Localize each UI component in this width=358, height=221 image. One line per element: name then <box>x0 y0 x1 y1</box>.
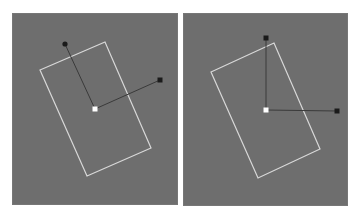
viewport-panel-left <box>12 13 178 205</box>
y-axis-handle-icon[interactable] <box>62 41 67 46</box>
pivot-point-icon[interactable] <box>93 107 98 112</box>
y-axis-handle-icon[interactable] <box>264 36 269 41</box>
pivot-point-icon[interactable] <box>264 108 269 113</box>
right-panel-canvas <box>183 13 348 206</box>
x-axis-handle-icon[interactable] <box>158 78 163 83</box>
x-axis-line <box>266 110 337 111</box>
viewport-panel-right <box>183 13 348 206</box>
x-axis-line <box>95 80 160 109</box>
y-axis-line <box>65 44 95 109</box>
x-axis-handle-icon[interactable] <box>335 109 340 114</box>
figure <box>0 0 358 221</box>
left-panel-canvas <box>12 13 178 205</box>
